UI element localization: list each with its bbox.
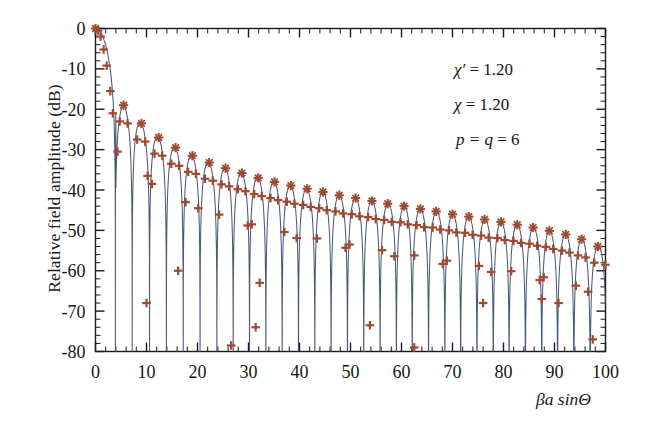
x-tick-label: 30 [240, 362, 258, 382]
x-tick-label: 10 [138, 362, 156, 382]
x-tick-label: 20 [189, 362, 207, 382]
y-tick-label: -70 [62, 302, 86, 322]
sample-marker [133, 135, 142, 144]
y-tick-label: -60 [62, 261, 86, 281]
sample-marker [184, 168, 193, 177]
sample-marker [257, 192, 266, 201]
sample-marker [517, 239, 526, 248]
sample-marker [175, 161, 184, 170]
sample-marker [412, 221, 421, 230]
sample-marker [428, 223, 437, 232]
sample-marker [322, 206, 331, 215]
sample-marker [217, 180, 226, 189]
sample-marker [432, 207, 441, 216]
x-tick-labels: 0102030405060708090100 [91, 362, 619, 382]
sample-marker [477, 231, 486, 240]
sample-marker [315, 204, 324, 213]
y-tick-labels: 0-10-20-30-40-50-60-70-80 [62, 19, 86, 362]
y-tick-label: 0 [77, 19, 86, 39]
figure-container: Relative field amplitude (dB) βa sinΘ χ′… [0, 0, 649, 433]
sample-marker [448, 210, 457, 219]
axis-ticks [96, 29, 606, 352]
sample-marker [171, 143, 180, 152]
sample-marker [225, 182, 234, 191]
sample-marker [484, 233, 493, 242]
sample-marker [119, 101, 128, 110]
y-tick-label: -20 [62, 100, 86, 120]
y-tick-label: -80 [62, 342, 86, 362]
sample-marker [115, 117, 124, 126]
x-tick-label: 40 [291, 362, 309, 382]
sample-marker [380, 216, 389, 225]
sample-marker [387, 218, 396, 227]
sample-marker [480, 215, 489, 224]
sample-marker [266, 194, 275, 203]
sample-marker [154, 133, 163, 142]
sample-marker [468, 231, 477, 240]
sample-marker [99, 45, 108, 54]
sample-marker [174, 266, 183, 275]
sample-marker [525, 239, 534, 248]
sample-marker [254, 173, 263, 182]
sample-marker [234, 185, 243, 194]
sample-marker [593, 242, 602, 251]
sample-marker [286, 181, 295, 190]
sample-marker [335, 191, 344, 200]
sample-marker [554, 299, 563, 308]
sample-marker [581, 253, 590, 262]
sample-marker [188, 151, 197, 160]
x-tick-label: 80 [495, 362, 513, 382]
sample-marker [371, 215, 380, 224]
axis-frame [96, 29, 606, 352]
sample-marker [318, 187, 327, 196]
sample-marker [366, 321, 375, 330]
sample-marker [351, 193, 360, 202]
sample-marker [192, 170, 201, 179]
sample-marker [274, 196, 283, 205]
sample-marker [561, 230, 570, 239]
sample-marker [355, 212, 364, 221]
sample-marker [201, 174, 210, 183]
sample-marker [574, 251, 583, 260]
sample-marker [558, 246, 567, 255]
sample-marker [250, 190, 259, 199]
sample-marker [577, 235, 586, 244]
sample-marker [221, 164, 230, 173]
sample-marker [167, 159, 176, 168]
sample-marker [241, 187, 250, 196]
sample-marker [367, 196, 376, 205]
sample-marker [339, 209, 348, 218]
x-tick-label: 70 [444, 362, 462, 382]
sample-marker [106, 87, 115, 96]
y-tick-label: -50 [62, 221, 86, 241]
x-tick-label: 90 [546, 362, 564, 382]
sample-marker [348, 210, 357, 219]
sample-marker [150, 149, 159, 158]
sample-marker [290, 199, 299, 208]
sample-marker [251, 323, 260, 332]
sample-marker [237, 168, 246, 177]
sample-marker [270, 177, 279, 186]
sample-marker [399, 202, 408, 211]
y-tick-label: -10 [62, 59, 86, 79]
sample-marker [533, 241, 542, 250]
sample-marker [364, 213, 373, 222]
y-tick-label: -40 [62, 181, 86, 201]
sample-marker [205, 158, 214, 167]
sample-marker [331, 207, 340, 216]
sample-marker [306, 203, 315, 212]
sample-marker [509, 237, 518, 246]
sample-marker [496, 217, 505, 226]
x-tick-label: 0 [91, 362, 100, 382]
sample-marker [537, 295, 546, 304]
sample-marker [420, 223, 429, 232]
sample-marker [283, 197, 292, 206]
x-tick-label: 50 [342, 362, 360, 382]
x-tick-label: 100 [592, 362, 619, 382]
sample-marker [436, 225, 445, 234]
sample-marker [416, 204, 425, 213]
sample-marker [383, 199, 392, 208]
sample-marker [141, 137, 150, 146]
sample-marker [461, 228, 470, 237]
sample-marker [158, 151, 167, 160]
